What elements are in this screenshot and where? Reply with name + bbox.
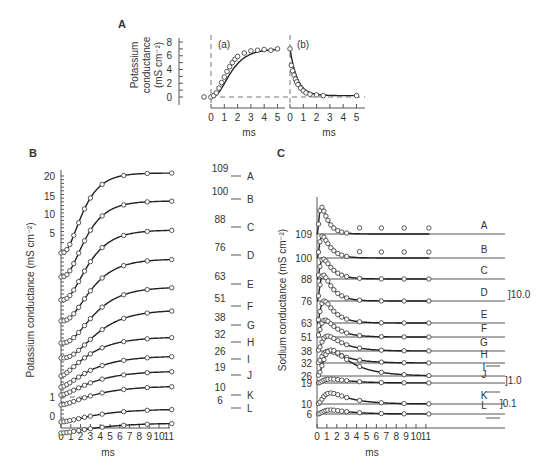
- data-point: [82, 415, 86, 419]
- data-point: [88, 196, 92, 200]
- data-point: [214, 91, 219, 96]
- panel-b-trace-label: B: [247, 194, 254, 205]
- data-point: [314, 93, 319, 98]
- data-point: [332, 249, 336, 253]
- data-point: [145, 229, 149, 233]
- data-point: [345, 231, 349, 235]
- data-point: [379, 335, 383, 339]
- panel-a-xtick: 4: [340, 112, 346, 123]
- panel-b-trace-label: H: [247, 337, 254, 348]
- data-point: [379, 250, 383, 254]
- data-point: [326, 218, 330, 222]
- data-point: [326, 302, 330, 306]
- panel-a-xtick: 4: [261, 112, 267, 123]
- data-point: [357, 380, 361, 384]
- panel-c-trace-label: F: [481, 323, 487, 334]
- data-point: [308, 92, 313, 97]
- data-point: [357, 276, 361, 280]
- data-point: [427, 402, 431, 406]
- data-point: [145, 200, 149, 204]
- figure: APotassiumconductance(mS cm⁻²)0246800112…: [0, 0, 540, 472]
- panel-c-trace-label: H: [480, 349, 487, 360]
- data-point: [122, 293, 126, 297]
- panel-b-xtick: 9: [146, 431, 152, 442]
- data-point: [122, 173, 126, 177]
- panel-b-trace-label: J: [247, 370, 252, 381]
- panel-c-trace-label: J: [482, 369, 487, 380]
- data-point: [357, 358, 361, 362]
- data-point: [340, 294, 344, 298]
- data-point: [170, 309, 174, 313]
- data-point: [318, 283, 322, 287]
- panel-c-trace-label: C: [480, 265, 487, 276]
- panel-c: CSodium conductance (mS cm⁻²)01234567891…: [277, 147, 531, 458]
- panel-a-ylabel: conductance: [141, 36, 152, 93]
- data-point: [88, 394, 92, 398]
- data-point: [145, 337, 149, 341]
- data-point: [72, 418, 76, 422]
- panel-b-voltage-label: 76: [214, 242, 226, 253]
- data-point: [357, 411, 361, 415]
- data-point: [340, 394, 344, 398]
- panel-b-trace-label: E: [247, 279, 254, 290]
- data-point: [340, 273, 344, 277]
- data-point: [402, 250, 406, 254]
- data-point: [345, 254, 349, 258]
- panel-a-xtick: 5: [275, 112, 281, 123]
- data-point: [340, 253, 344, 257]
- data-point: [88, 259, 92, 263]
- data-point: [357, 346, 361, 350]
- data-point: [170, 228, 174, 232]
- data-point: [122, 373, 126, 377]
- data-point: [357, 226, 361, 230]
- panel-a-xtick: 0: [287, 112, 293, 123]
- panel-b-trace-label: I: [247, 354, 250, 365]
- data-point: [100, 363, 104, 367]
- panel-c-trace-label: D: [480, 287, 487, 298]
- panel-c-xtick: 11: [421, 431, 432, 442]
- panel-a-ytick: 4: [166, 64, 172, 75]
- panel-b-label: B: [29, 147, 37, 159]
- panel-b-voltage-label: 38: [214, 312, 226, 323]
- data-point: [76, 330, 80, 334]
- data-point: [65, 272, 69, 276]
- panel-c-xtick: 8: [393, 431, 399, 442]
- data-point: [170, 171, 174, 175]
- data-point: [345, 395, 349, 399]
- data-point: [82, 239, 86, 243]
- panel-c-xtick: 7: [384, 431, 390, 442]
- panel-a-sub-b: (b): [297, 39, 309, 50]
- data-point: [170, 355, 174, 359]
- data-point: [170, 385, 174, 389]
- data-point: [379, 299, 383, 303]
- data-point: [345, 357, 349, 361]
- panel-c-trace-label: G: [480, 337, 488, 348]
- panel-a-ylabel: Potassium: [129, 42, 140, 89]
- data-point: [82, 383, 86, 387]
- panel-b-xtick: 5: [107, 431, 113, 442]
- data-point: [76, 398, 80, 402]
- data-point: [318, 370, 322, 374]
- data-point: [219, 80, 224, 85]
- panel-c-xtick: 0: [314, 431, 320, 442]
- panel-b-ytick: 0: [49, 411, 55, 422]
- panel-b-trace-label: A: [247, 171, 254, 182]
- data-point: [345, 378, 349, 382]
- data-point: [122, 233, 126, 237]
- data-point: [68, 269, 72, 273]
- panel-c-xtick: 9: [403, 431, 409, 442]
- data-point: [122, 339, 126, 343]
- data-point: [324, 214, 328, 218]
- data-point: [427, 250, 431, 254]
- data-point: [318, 240, 322, 244]
- data-point: [402, 321, 406, 325]
- data-point: [170, 370, 174, 374]
- panel-b-voltage-label: 100: [212, 186, 229, 197]
- data-point: [427, 335, 431, 339]
- data-point: [402, 335, 406, 339]
- data-point: [72, 388, 76, 392]
- panel-b-trace-label: D: [247, 250, 254, 261]
- data-point: [145, 311, 149, 315]
- data-point: [340, 378, 344, 382]
- data-point: [68, 242, 72, 246]
